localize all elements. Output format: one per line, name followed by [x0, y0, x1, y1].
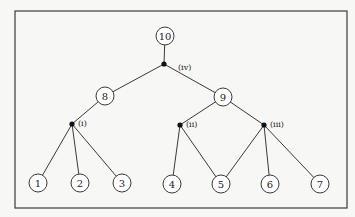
tree-diagram: (iv)(i)(ii)(iii) 10891234567: [0, 0, 355, 217]
junction-label: (ii): [186, 120, 197, 129]
node-label: 9: [220, 92, 226, 103]
junction-label: (iv): [178, 63, 191, 72]
node-label: 7: [317, 179, 323, 190]
diagram-frame: [15, 11, 347, 208]
node-5: 5: [212, 175, 230, 193]
node-7: 7: [311, 175, 329, 193]
node-9: 9: [214, 88, 232, 106]
nodes-group: 10891234567: [29, 27, 329, 193]
junction-iv: (iv): [161, 61, 191, 71]
node-label: 10: [159, 31, 172, 42]
node-label: 3: [119, 178, 125, 189]
junction-dot-icon: [69, 121, 74, 126]
node-2: 2: [71, 174, 89, 192]
node-label: 6: [267, 179, 273, 190]
junction-label: (i): [78, 119, 87, 128]
edge-iv-9: [164, 64, 223, 97]
node-3: 3: [113, 174, 131, 192]
edge-iv-8: [105, 64, 164, 96]
node-label: 4: [169, 179, 175, 190]
node-label: 5: [218, 179, 224, 190]
node-8: 8: [96, 87, 114, 105]
junction-dot-icon: [261, 122, 266, 127]
node-10: 10: [156, 27, 174, 45]
junction-dot-icon: [177, 122, 182, 127]
edge-ii-5: [180, 125, 221, 184]
node-1: 1: [29, 174, 47, 192]
node-label: 1: [35, 178, 41, 189]
junction-ii: (ii): [177, 120, 197, 129]
edge-i-1: [38, 124, 72, 183]
node-6: 6: [261, 175, 279, 193]
node-4: 4: [163, 175, 181, 193]
edge-iii-5: [221, 125, 264, 184]
edges-group: [38, 36, 320, 184]
junction-dot-icon: [161, 61, 166, 66]
junction-iii: (iii): [261, 120, 284, 129]
junction-label: (iii): [270, 120, 284, 129]
junction-i: (i): [69, 119, 86, 128]
node-label: 2: [77, 178, 83, 189]
node-label: 8: [102, 91, 108, 102]
